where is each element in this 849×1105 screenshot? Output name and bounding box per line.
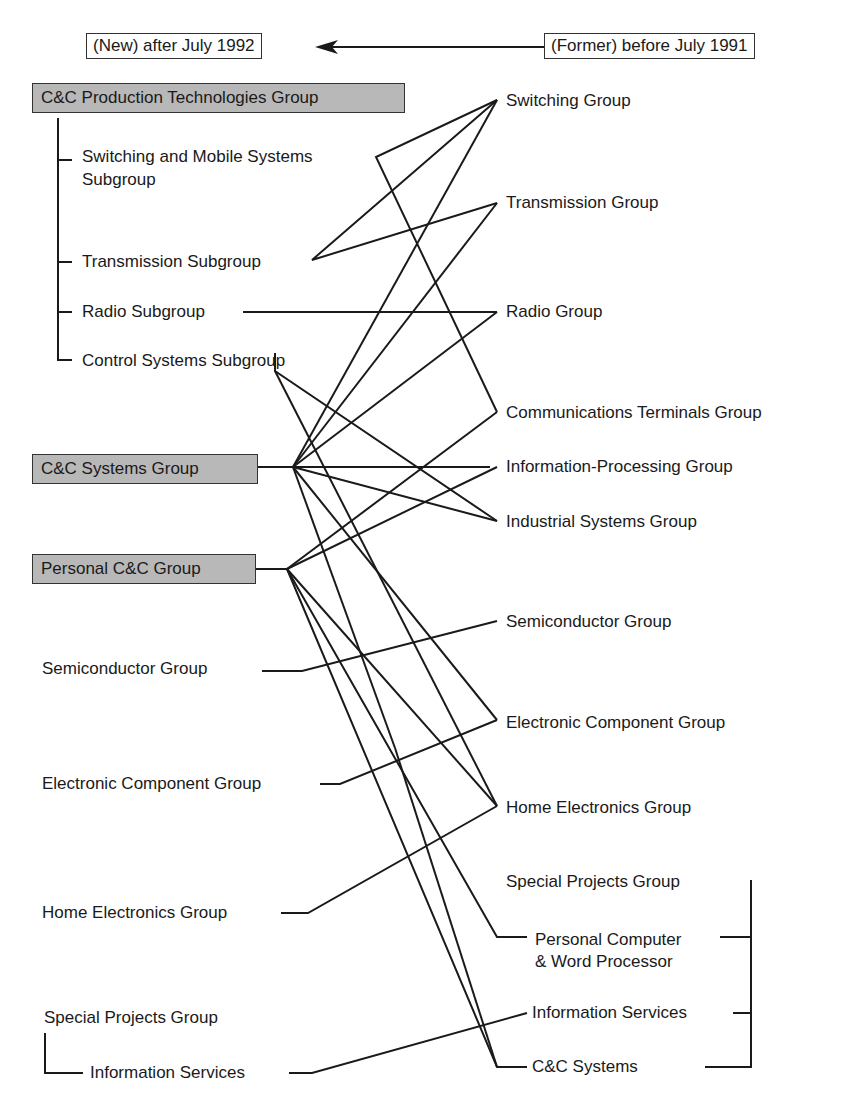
production-technologies-group-box: C&C Production Technologies Group <box>32 83 405 113</box>
former-special-projects-group: Special Projects Group <box>506 872 680 892</box>
former-home-electronics-group: Home Electronics Group <box>506 798 691 818</box>
personal-cc-group-box: Personal C&C Group <box>32 554 256 584</box>
former-switching-group: Switching Group <box>506 91 631 111</box>
former-electronic-component-group: Electronic Component Group <box>506 713 725 733</box>
cc-systems-group-label: C&C Systems Group <box>41 459 199 478</box>
legend-new-label: (New) after July 1992 <box>93 36 255 55</box>
control-systems-subgroup: Control Systems Subgroup <box>82 351 285 371</box>
former-radio-group: Radio Group <box>506 302 602 322</box>
legend-former-box: (Former) before July 1991 <box>544 33 755 59</box>
legend-new-box: (New) after July 1992 <box>86 33 262 59</box>
new-home-electronics-group: Home Electronics Group <box>42 903 227 923</box>
production-tree-trunk <box>58 118 72 360</box>
switching-mobile-subgroup-line2: Subgroup <box>82 170 156 190</box>
former-semiconductor-group: Semiconductor Group <box>506 612 671 632</box>
new-special-projects-group: Special Projects Group <box>44 1008 218 1028</box>
new-electronic-component-group: Electronic Component Group <box>42 774 261 794</box>
former-information-processing-group: Information-Processing Group <box>506 457 733 477</box>
former-personal-computer-line2: & Word Processor <box>535 952 673 972</box>
new-information-services: Information Services <box>90 1063 245 1083</box>
former-personal-computer-line1: Personal Computer <box>535 930 681 950</box>
production-technologies-group-label: C&C Production Technologies Group <box>41 88 319 107</box>
former-cc-systems: C&C Systems <box>532 1057 638 1077</box>
new-semiconductor-group: Semiconductor Group <box>42 659 207 679</box>
personal-cc-group-label: Personal C&C Group <box>41 559 201 578</box>
transmission-subgroup: Transmission Subgroup <box>82 252 261 272</box>
radio-subgroup: Radio Subgroup <box>82 302 205 322</box>
legend-former-label: (Former) before July 1991 <box>551 36 748 55</box>
former-information-services: Information Services <box>532 1003 687 1023</box>
switching-mobile-subgroup-line1: Switching and Mobile Systems <box>82 147 313 167</box>
cc-systems-group-box: C&C Systems Group <box>32 454 258 484</box>
former-industrial-systems-group: Industrial Systems Group <box>506 512 697 532</box>
former-communications-terminals-group: Communications Terminals Group <box>506 403 762 423</box>
former-transmission-group: Transmission Group <box>506 193 658 213</box>
